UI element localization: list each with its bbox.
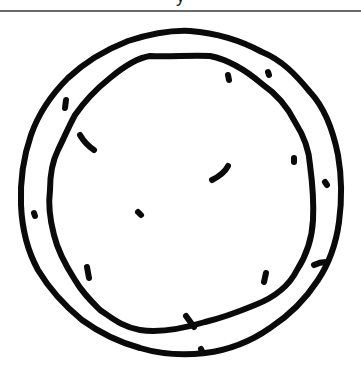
- speck: [212, 166, 228, 180]
- inner-crust-ring: [49, 56, 313, 331]
- speck: [138, 212, 141, 215]
- speck: [314, 262, 326, 265]
- speck: [228, 75, 229, 80]
- speck: [264, 273, 266, 282]
- speck: [65, 100, 66, 108]
- speck: [34, 213, 35, 216]
- pizza-drawing: [0, 0, 361, 377]
- speck: [87, 267, 89, 278]
- speck: [201, 349, 203, 353]
- speck: [325, 182, 327, 185]
- outer-crust-ring: [21, 31, 341, 355]
- speck: [268, 72, 269, 75]
- speck: [80, 135, 94, 150]
